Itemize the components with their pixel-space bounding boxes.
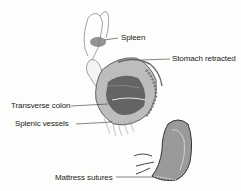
label-mattress-sutures: Mattress sutures [55,173,113,182]
leader-stomach [140,59,170,60]
leader-spleen [104,38,118,40]
operative-field [96,58,162,136]
spleen-shape [90,37,106,47]
hand-holding-spleen [84,11,109,60]
leader-vessels [76,122,112,124]
illustration [0,0,241,191]
surgical-diagram: Spleen Stomach retracted Transverse colo… [0,0,241,191]
repaired-spleen [134,120,192,181]
label-stomach-retracted: Stomach retracted [172,54,236,63]
label-transverse-colon: Transverse colon [11,101,70,110]
label-spleen: Spleen [121,33,145,42]
label-splenic-vessels: Splenic vessels [15,119,69,128]
